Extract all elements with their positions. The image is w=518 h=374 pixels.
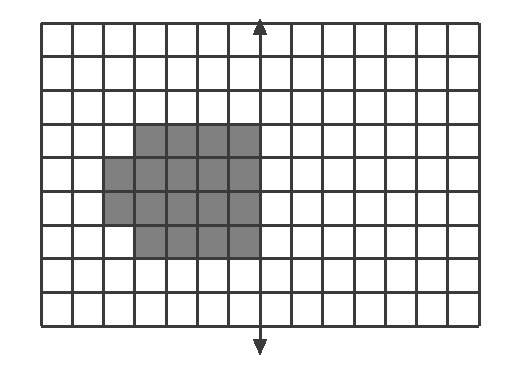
grid-diagram bbox=[0, 0, 518, 374]
shaded-cell bbox=[104, 192, 135, 226]
shaded-cell bbox=[166, 124, 197, 158]
shaded-cell bbox=[135, 225, 166, 259]
shaded-cell bbox=[198, 225, 229, 259]
shaded-cell bbox=[166, 225, 197, 259]
shaded-cell bbox=[229, 158, 260, 192]
shaded-cell bbox=[166, 192, 197, 226]
shaded-cell bbox=[229, 225, 260, 259]
shaded-cell bbox=[198, 124, 229, 158]
shaded-cell bbox=[166, 158, 197, 192]
shaded-cell bbox=[135, 158, 166, 192]
shaded-cell bbox=[135, 192, 166, 226]
shaded-cell bbox=[229, 124, 260, 158]
shaded-cell bbox=[104, 158, 135, 192]
shaded-cell bbox=[229, 192, 260, 226]
shaded-cell bbox=[135, 124, 166, 158]
shaded-cell bbox=[198, 192, 229, 226]
shaded-cell bbox=[198, 158, 229, 192]
figure-canvas bbox=[0, 0, 518, 374]
